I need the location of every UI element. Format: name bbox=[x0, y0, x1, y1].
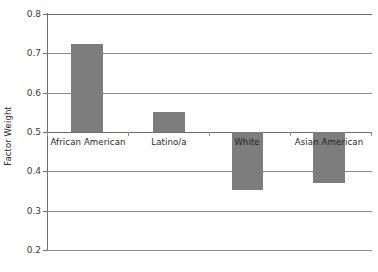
y-axis-tick-mark bbox=[43, 211, 47, 212]
category-tick bbox=[209, 132, 210, 136]
gridline bbox=[47, 14, 372, 15]
y-axis-tick-mark bbox=[43, 93, 47, 94]
x-axis-category-label: White bbox=[217, 137, 277, 147]
bar[interactable] bbox=[71, 44, 103, 132]
bar[interactable] bbox=[153, 112, 185, 132]
y-axis-tick-label: 0.4 bbox=[1, 166, 41, 176]
y-axis-tick-labels: 0.80.70.60.50.40.30.2 bbox=[0, 0, 41, 272]
category-tick bbox=[290, 132, 291, 136]
x-axis-category-label: Asian American bbox=[287, 137, 371, 147]
y-axis-tick-label: 0.3 bbox=[1, 206, 41, 216]
y-axis-tick-mark bbox=[43, 53, 47, 54]
gridline bbox=[47, 211, 372, 212]
y-axis-tick-mark bbox=[43, 14, 47, 15]
bar-chart: Factor Weight 0.80.70.60.50.40.30.2 Afri… bbox=[0, 0, 378, 272]
y-axis-tick-label: 0.7 bbox=[1, 48, 41, 58]
y-axis-tick-label: 0.6 bbox=[1, 88, 41, 98]
y-axis-tick-mark bbox=[43, 250, 47, 251]
y-axis-tick-mark bbox=[43, 171, 47, 172]
x-axis-category-label: African American bbox=[47, 137, 129, 147]
gridline bbox=[47, 250, 372, 251]
y-axis-tick-label: 0.8 bbox=[1, 9, 41, 19]
category-tick bbox=[371, 132, 372, 136]
category-tick bbox=[47, 132, 48, 136]
y-axis-tick-label: 0.5 bbox=[1, 127, 41, 137]
y-axis-tick-mark bbox=[43, 132, 47, 133]
x-axis-category-label: Latino/a bbox=[135, 137, 203, 147]
category-tick bbox=[128, 132, 129, 136]
y-axis-tick-label: 0.2 bbox=[1, 245, 41, 255]
